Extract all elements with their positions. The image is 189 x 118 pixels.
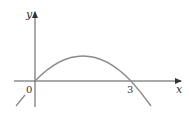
parabola-left-tail — [16, 95, 25, 106]
function-graph: y x 0 3 — [0, 0, 189, 118]
tick-label-3: 3 — [127, 84, 133, 95]
x-axis-label: x — [176, 83, 183, 96]
origin-label: 0 — [26, 84, 32, 95]
y-axis-label: y — [25, 8, 33, 21]
